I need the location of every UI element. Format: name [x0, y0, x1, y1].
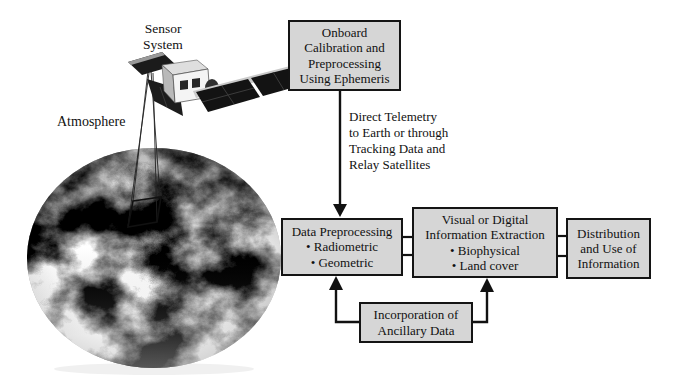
telemetry-arrow [333, 91, 347, 217]
data-preprocessing-bullet-geometric: • Geometric [311, 255, 374, 270]
information-extraction-bullet-biophysical: • Biophysical [450, 243, 520, 258]
sensor-system-label: Sensor System [127, 21, 199, 53]
information-extraction-bullet-landcover: • Land cover [452, 258, 519, 273]
distribution-box: Distribution and Use of Information [566, 218, 651, 279]
atmosphere-label: Atmosphere [57, 114, 125, 130]
satellite-icon [128, 52, 306, 116]
data-preprocessing-box: Data Preprocessing • Radiometric • Geome… [281, 218, 403, 276]
ancillary-right-arrow [473, 278, 494, 322]
onboard-calibration-box: Onboard Calibration and Preprocessing Us… [288, 20, 401, 91]
figure-canvas: Sensor System Atmosphere Direct Telemetr… [0, 0, 676, 378]
information-extraction-title: Visual or Digital Information Extraction [425, 212, 545, 242]
data-preprocessing-bullet-radiometric: • Radiometric [306, 239, 378, 254]
ancillary-data-box: Incorporation of Ancillary Data [359, 302, 473, 343]
information-extraction-box: Visual or Digital Information Extraction… [412, 207, 558, 278]
earth-illustration [27, 148, 281, 368]
data-preprocessing-title: Data Preprocessing [292, 224, 393, 239]
ancillary-left-arrow [329, 276, 359, 322]
telemetry-label: Direct Telemetry to Earth or through Tra… [349, 109, 459, 172]
